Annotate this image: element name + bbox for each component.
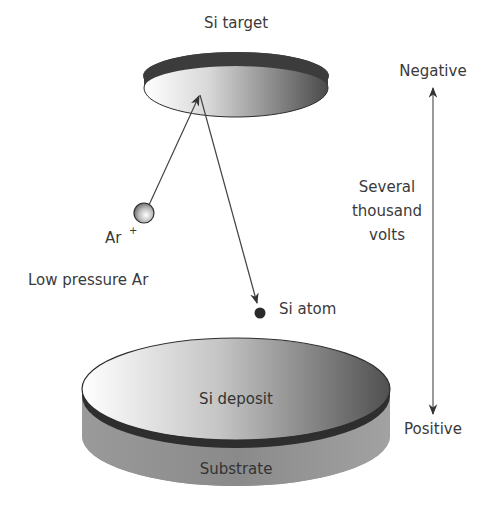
ar-ion-label: Ar xyxy=(105,229,122,247)
si-atom-dot xyxy=(255,308,266,319)
substrate-label: Substrate xyxy=(200,460,273,478)
low-pressure-ar-label: Low pressure Ar xyxy=(28,271,149,289)
voltage-label-line1: Several xyxy=(359,178,415,196)
si-target-label: Si target xyxy=(204,14,268,32)
si-atom-label: Si atom xyxy=(279,300,336,318)
sputtering-diagram: Si target Ar + Low pressure Ar Si atom S… xyxy=(0,0,498,506)
si-deposit-label: Si deposit xyxy=(199,390,273,408)
voltage-label-line2: thousand xyxy=(352,202,422,220)
si-target-disc xyxy=(143,52,329,117)
ar-ion-sphere xyxy=(134,203,154,223)
positive-label: Positive xyxy=(404,420,462,438)
si-deposit-surface xyxy=(82,338,390,440)
ar-ion-charge: + xyxy=(129,225,137,236)
si-atom-trajectory-arrow xyxy=(200,95,257,303)
ar-ion-trajectory-arrow xyxy=(149,96,199,205)
voltage-label-line3: volts xyxy=(369,226,405,244)
negative-label: Negative xyxy=(399,62,466,80)
